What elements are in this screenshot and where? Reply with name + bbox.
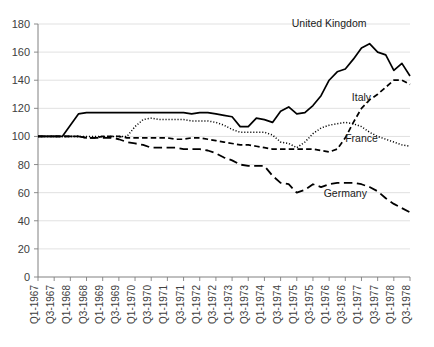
chart-canvas: 020406080100120140160180 Q1-1967Q3-1967Q… [0, 0, 434, 347]
y-tick-label: 20 [18, 243, 30, 255]
x-tick-label: Q3-1970 [142, 285, 153, 324]
y-tick-label: 160 [12, 46, 30, 58]
x-tick-label: Q3-1974 [272, 285, 283, 324]
x-tick-label: Q3-1977 [369, 285, 380, 324]
x-tick-label: Q1-1977 [352, 285, 363, 324]
y-axis-tick-labels: 020406080100120140160180 [12, 18, 30, 283]
x-tick-label: Q1-1971 [158, 285, 169, 324]
x-axis-tickmarks [38, 277, 410, 281]
x-tick-label: Q3-1969 [110, 285, 121, 324]
x-tick-label: Q3-1973 [239, 285, 250, 324]
x-tick-label: Q3-1975 [304, 285, 315, 324]
series-line-germany [38, 136, 410, 212]
series-label-germany: Germany [324, 187, 368, 199]
x-axis-tick-labels: Q1-1967Q3-1967Q1-1968Q3-1968Q1-1969Q3-19… [29, 285, 412, 324]
x-tick-label: Q1-1974 [255, 285, 266, 324]
x-tick-label: Q3-1967 [45, 285, 56, 324]
x-tick-label: Q3-1976 [336, 285, 347, 324]
series-label-italy: Italy [352, 91, 372, 103]
x-tick-label: Q1-1968 [61, 285, 72, 324]
x-tick-label: Q3-1972 [207, 285, 218, 324]
x-tick-label: Q1-1969 [94, 285, 105, 324]
y-tick-label: 140 [12, 74, 30, 86]
x-tick-label: Q1-1978 [385, 285, 396, 324]
y-axis-tickmarks [34, 24, 38, 277]
y-tick-label: 40 [18, 215, 30, 227]
series-annotations-group: United KingdomItalyFranceGermany [292, 17, 378, 199]
x-tick-label: Q3-1971 [175, 285, 186, 324]
x-tick-label: Q3-1978 [401, 285, 412, 324]
y-tick-label: 0 [24, 271, 30, 283]
y-tick-label: 80 [18, 159, 30, 171]
x-tick-label: Q3-1968 [78, 285, 89, 324]
line-chart: 020406080100120140160180 Q1-1967Q3-1967Q… [0, 0, 434, 347]
x-tick-label: Q1-1973 [223, 285, 234, 324]
x-tick-label: Q1-1967 [29, 285, 40, 324]
y-tick-label: 60 [18, 187, 30, 199]
x-tick-label: Q1-1970 [126, 285, 137, 324]
x-tick-label: Q1-1972 [191, 285, 202, 324]
y-tick-label: 180 [12, 18, 30, 30]
series-label-france: France [345, 132, 378, 144]
y-tick-label: 100 [12, 130, 30, 142]
x-tick-label: Q1-1975 [288, 285, 299, 324]
y-tick-label: 120 [12, 102, 30, 114]
series-label-united-kingdom: United Kingdom [292, 17, 367, 29]
x-tick-label: Q1-1976 [320, 285, 331, 324]
